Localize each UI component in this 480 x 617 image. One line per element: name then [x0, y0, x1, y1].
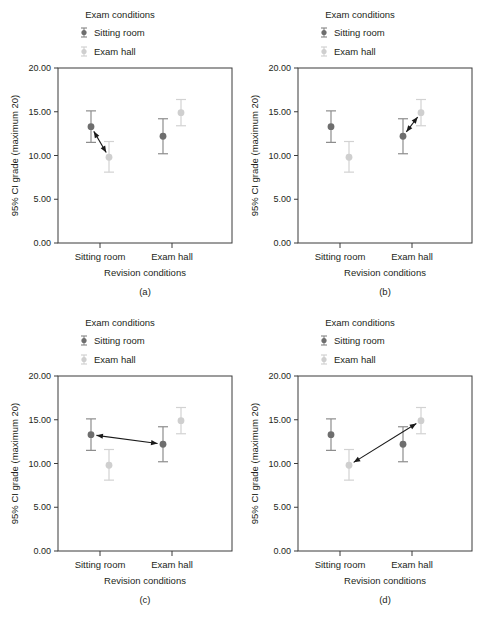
- panel-caption: (b): [379, 286, 391, 297]
- datapoint-sitting-room-sitting-room: [326, 419, 336, 451]
- datapoint-exam-hall-sitting-room: [398, 119, 408, 154]
- legend: Exam conditions: [325, 317, 395, 328]
- legend-title: Exam conditions: [85, 317, 155, 328]
- datapoint-sitting-room-exam-hall: [344, 450, 354, 481]
- legend-title: Exam conditions: [325, 317, 395, 328]
- datapoint-exam-hall-exam-hall: [416, 100, 426, 126]
- y-tick-label: 5.00: [33, 194, 51, 204]
- y-tick-label: 5.00: [273, 194, 291, 204]
- legend: Exam conditions: [85, 317, 155, 328]
- x-tick-label: Sitting room: [75, 251, 126, 262]
- effect-arrow: [354, 424, 417, 463]
- datapoint-sitting-room-sitting-room: [326, 111, 336, 143]
- legend-item-exam-hall-label: Exam hall: [334, 354, 376, 365]
- legend-item-exam-hall[interactable]: Exam hall: [81, 46, 136, 57]
- x-tick-label: Exam hall: [391, 559, 433, 570]
- panel-caption: (d): [379, 594, 391, 605]
- y-tick-label: 15.00: [28, 107, 51, 117]
- y-tick-label: 0.00: [33, 546, 51, 556]
- datapoint-sitting-room-exam-hall: [104, 450, 114, 481]
- y-tick-label: 20.00: [268, 63, 291, 73]
- datapoint-exam-hall-exam-hall: [416, 408, 426, 434]
- datapoint-exam-hall-exam-hall: [176, 100, 186, 126]
- panel-caption: (a): [139, 286, 151, 297]
- legend-item-sitting-room[interactable]: Sitting room: [321, 27, 385, 38]
- panel-d: Exam conditionsSitting roomExam hall0.00…: [240, 308, 480, 613]
- x-tick-label: Sitting room: [315, 559, 366, 570]
- legend-item-sitting-room-label: Sitting room: [94, 335, 145, 346]
- plot-frame: [298, 68, 472, 243]
- y-tick-label: 20.00: [28, 63, 51, 73]
- datapoint-exam-hall-sitting-room: [158, 427, 168, 462]
- legend-title: Exam conditions: [85, 9, 155, 20]
- datapoint-exam-hall-exam-hall: [176, 408, 186, 434]
- legend-item-exam-hall-label: Exam hall: [334, 46, 376, 57]
- legend-item-sitting-room-label: Sitting room: [334, 335, 385, 346]
- legend-item-exam-hall[interactable]: Exam hall: [321, 46, 376, 57]
- plot-frame: [298, 376, 472, 551]
- legend-item-sitting-room-label: Sitting room: [334, 27, 385, 38]
- x-tick-label: Sitting room: [315, 251, 366, 262]
- legend-item-sitting-room[interactable]: Sitting room: [81, 335, 145, 346]
- legend-title: Exam conditions: [325, 9, 395, 20]
- datapoint-sitting-room-sitting-room: [86, 111, 96, 143]
- x-tick-label: Exam hall: [151, 251, 193, 262]
- y-tick-label: 0.00: [273, 546, 291, 556]
- y-tick-label: 15.00: [28, 415, 51, 425]
- legend: Exam conditions: [325, 9, 395, 20]
- legend-item-exam-hall-label: Exam hall: [94, 354, 136, 365]
- x-axis-title: Revision conditions: [104, 267, 186, 278]
- figure-four-panel-interaction-plots: Exam conditionsSitting roomExam hall0.00…: [0, 0, 480, 617]
- panel-b: Exam conditionsSitting roomExam hall0.00…: [240, 0, 480, 305]
- legend-item-sitting-room[interactable]: Sitting room: [321, 335, 385, 346]
- datapoint-sitting-room-exam-hall: [104, 142, 114, 173]
- legend: Exam conditions: [85, 9, 155, 20]
- datapoint-exam-hall-sitting-room: [158, 119, 168, 154]
- x-tick-label: Sitting room: [75, 559, 126, 570]
- y-tick-label: 10.00: [28, 459, 51, 469]
- y-axis-title: 95% CI grade (maximum 20): [9, 95, 20, 216]
- legend-item-sitting-room[interactable]: Sitting room: [81, 27, 145, 38]
- legend-item-sitting-room-label: Sitting room: [94, 27, 145, 38]
- effect-arrow: [96, 434, 157, 446]
- y-tick-label: 10.00: [28, 151, 51, 161]
- y-tick-label: 10.00: [268, 151, 291, 161]
- x-axis-title: Revision conditions: [344, 575, 426, 586]
- datapoint-sitting-room-sitting-room: [86, 419, 96, 451]
- x-tick-label: Exam hall: [391, 251, 433, 262]
- plot-frame: [58, 68, 232, 243]
- legend-item-exam-hall[interactable]: Exam hall: [321, 354, 376, 365]
- panel-a: Exam conditionsSitting roomExam hall0.00…: [0, 0, 240, 305]
- legend-item-exam-hall-label: Exam hall: [94, 46, 136, 57]
- plot-frame: [58, 376, 232, 551]
- y-tick-label: 20.00: [268, 371, 291, 381]
- y-tick-label: 0.00: [273, 238, 291, 248]
- y-axis-title: 95% CI grade (maximum 20): [249, 95, 260, 216]
- effect-arrow: [406, 117, 417, 132]
- y-axis-title: 95% CI grade (maximum 20): [249, 403, 260, 524]
- x-tick-label: Exam hall: [151, 559, 193, 570]
- x-axis-title: Revision conditions: [104, 575, 186, 586]
- y-tick-label: 0.00: [33, 238, 51, 248]
- panel-caption: (c): [139, 594, 150, 605]
- y-tick-label: 15.00: [268, 415, 291, 425]
- y-tick-label: 5.00: [33, 502, 51, 512]
- y-tick-label: 20.00: [28, 371, 51, 381]
- y-axis-title: 95% CI grade (maximum 20): [9, 403, 20, 524]
- legend-item-exam-hall[interactable]: Exam hall: [81, 354, 136, 365]
- y-tick-label: 5.00: [273, 502, 291, 512]
- y-tick-label: 15.00: [268, 107, 291, 117]
- panel-c: Exam conditionsSitting roomExam hall0.00…: [0, 308, 240, 613]
- x-axis-title: Revision conditions: [344, 267, 426, 278]
- y-tick-label: 10.00: [268, 459, 291, 469]
- datapoint-sitting-room-exam-hall: [344, 142, 354, 173]
